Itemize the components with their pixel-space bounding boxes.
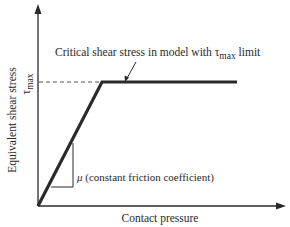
- slope-triangle: [51, 143, 73, 187]
- callout-prefix: Critical shear stress in model with: [55, 46, 215, 58]
- callout-label: Critical shear stress in model with τmax…: [55, 46, 261, 61]
- mu-label: μ (constant friction coefficient): [76, 171, 214, 184]
- tau-subscript: max: [25, 73, 35, 90]
- y-axis-label: Equivalent shear stress: [6, 67, 19, 173]
- callout-sub: max: [219, 51, 236, 61]
- x-axis-arrow-icon: [276, 203, 286, 210]
- x-axis-label: Contact pressure: [122, 212, 199, 225]
- diagram-canvas: Critical shear stress in model with τmax…: [0, 0, 290, 227]
- tau-max-label: τmax: [20, 73, 35, 94]
- callout-suffix: limit: [236, 46, 261, 58]
- y-axis-arrow-icon: [35, 4, 42, 14]
- mu-text: (constant friction coefficient): [83, 171, 215, 184]
